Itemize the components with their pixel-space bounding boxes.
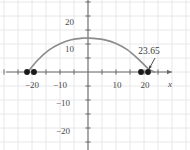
x-axis-label: x [168, 80, 172, 89]
curve-path [28, 38, 154, 72]
coordinate-plane-svg [0, 0, 190, 150]
y-tick-label-20: 20 [65, 18, 74, 27]
annotation-arrow [149, 58, 155, 69]
x-tick-label-neg20: −20 [25, 81, 39, 90]
graph-figure: −20 −10 10 20 20 10 −10 −20 x 23.65 [0, 0, 190, 150]
left-inner-point [31, 69, 37, 75]
right-outer-point [145, 69, 151, 75]
left-outer-point [24, 69, 30, 75]
x-tick-label-10: 10 [113, 81, 122, 90]
x-tick-label-neg10: −10 [53, 81, 67, 90]
x-tick-label-20: 20 [141, 81, 150, 90]
annotation-value-label: 23.65 [138, 47, 159, 57]
y-tick-label-neg10: −10 [56, 99, 70, 108]
y-tick-label-neg20: −20 [56, 127, 70, 136]
y-tick-label-10: 10 [65, 45, 74, 54]
grid-lines [0, 0, 190, 150]
right-inner-point [138, 69, 144, 75]
